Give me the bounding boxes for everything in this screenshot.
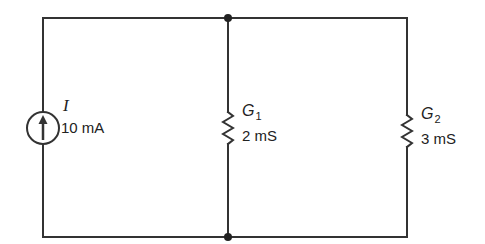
g2-symbol-label: G2: [421, 106, 441, 122]
g2-resistor-icon: [402, 115, 412, 147]
g1-symbol-label: G1: [242, 103, 262, 119]
g1-symbol: G: [242, 102, 254, 119]
g1-value-label: 2 mS: [242, 128, 277, 143]
top-node-dot: [224, 14, 232, 22]
g1-resistor-icon: [223, 112, 233, 144]
g2-symbol: G: [421, 105, 433, 122]
current-source-icon: [27, 112, 59, 144]
g1-subscript: 1: [255, 110, 261, 122]
source-value-label: 10 mA: [61, 120, 104, 135]
bottom-node-dot: [224, 233, 232, 241]
source-symbol-label: I: [63, 97, 69, 114]
g2-value-label: 3 mS: [421, 131, 456, 146]
g2-subscript: 2: [434, 113, 440, 125]
